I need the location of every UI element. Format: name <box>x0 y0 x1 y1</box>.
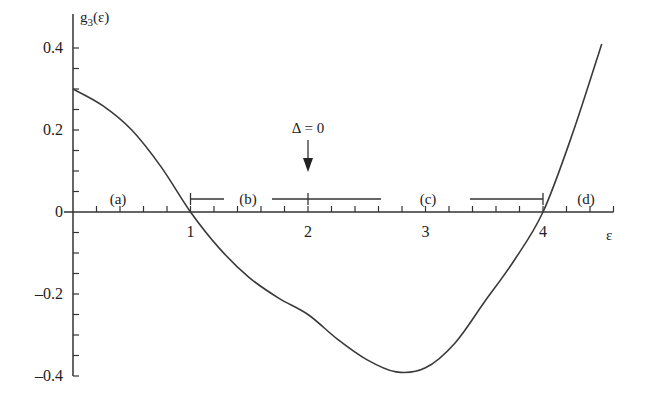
axes <box>64 14 614 376</box>
y-tick-label: –0.4 <box>34 367 63 384</box>
y-axis-label: g3(ε) <box>80 9 109 28</box>
x-tick-label: 3 <box>422 223 430 240</box>
x-tick-label: 2 <box>304 223 312 240</box>
x-tick-label: 1 <box>187 223 195 240</box>
region-label: (d) <box>577 191 595 208</box>
arrow-down-icon <box>303 158 313 172</box>
region-label: (c) <box>420 191 437 208</box>
g3-curve <box>73 44 602 373</box>
y-tick-label: 0.4 <box>43 39 63 56</box>
region-label: (a) <box>110 191 127 208</box>
region-label: (b) <box>239 191 257 208</box>
x-axis-label: ε <box>606 227 612 243</box>
delta-zero-label: Δ = 0 <box>292 120 324 136</box>
y-tick-label: –0.2 <box>34 285 63 302</box>
y-tick-label: 0 <box>55 203 63 220</box>
x-tick-label: 4 <box>539 223 547 240</box>
annotations: Δ = 0(a)(b)(c)(d) <box>110 120 595 208</box>
y-tick-label: 0.2 <box>43 121 63 138</box>
chart-plot: 12340.40.20–0.2–0.4 Δ = 0(a)(b)(c)(d) g3… <box>0 0 652 403</box>
